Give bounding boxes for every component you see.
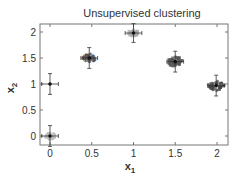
cluster: ✶✶✶✶✶✶✶✶✶✶✶✶✶✶✶✶✶✶✶✶✶✶✶✶✶✶✶✶✶✶✶✶✶✶✶✶✶✶✶✶… [81,48,98,69]
cluster [167,51,184,72]
cluster [42,74,59,95]
y-tick-label: 0.5 [22,105,36,116]
x-axis-label: x1 [125,160,136,175]
cluster-center [132,31,136,35]
x-tick-label: 0.5 [85,148,99,159]
y-tick-label: 1 [30,79,36,90]
x-tick-label: 0 [47,148,53,159]
cluster-center [173,60,177,64]
chart-title: Unsupervised clustering [83,7,200,19]
data-clusters: ✶✶✶✶✶✶✶✶✶✶✶✶✶✶✶✶✶✶✶✶✶✶✶✶✶✶✶✶✶✶✶✶✶✶✶✶✶✶✶✶… [42,24,226,147]
y-tick-label: 1.5 [22,53,36,64]
cluster-center [87,56,91,60]
y-tick-label: 0 [30,131,36,142]
y-tick-label: 2 [30,27,36,38]
cluster-center [214,84,218,88]
cluster-center [48,134,52,138]
scatter-chart: Unsupervised clustering 00.511.52 00.511… [0,0,239,183]
x-tick-label: 2 [214,148,220,159]
svg-text:✶: ✶ [83,52,88,58]
x-axis-ticks: 00.511.52 [47,24,220,159]
cluster [42,126,59,147]
x-tick-label: 1 [131,148,137,159]
cluster [207,75,226,96]
y-axis-label: x2 [4,82,19,93]
cluster [125,24,142,43]
x-tick-label: 1.5 [168,148,182,159]
cluster-center [48,82,52,86]
